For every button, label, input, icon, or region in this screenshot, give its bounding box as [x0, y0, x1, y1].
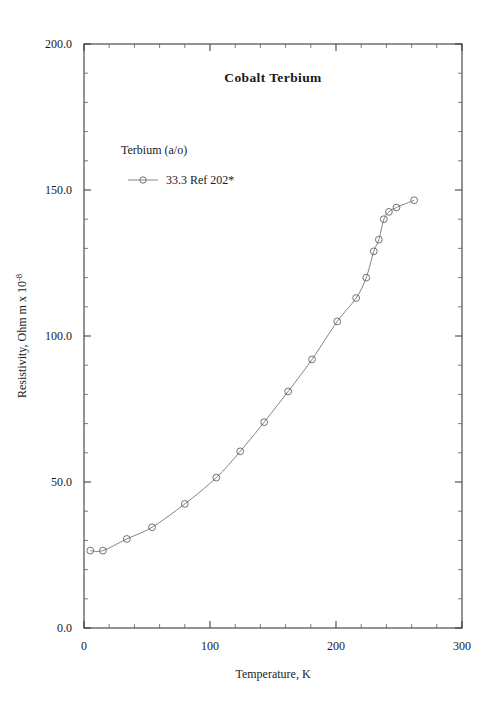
x-axis-tick-labels: 0100200300 [81, 639, 471, 653]
x-tick-label: 200 [327, 639, 345, 653]
x-tick-label: 300 [453, 639, 471, 653]
y-tick-label: 0.0 [57, 621, 72, 635]
x-tick-label: 0 [81, 639, 87, 653]
plot-frame [84, 44, 462, 628]
y-axis-label-main: Resistivity, Ohm m x 10 [15, 281, 29, 398]
x-axis-label: Temperature, K [235, 667, 310, 681]
series-line [90, 200, 414, 551]
y-axis-label: Resistivity, Ohm m x 10-8 [14, 274, 29, 398]
legend-entry[interactable]: 33.3 Ref 202* [128, 173, 234, 187]
y-axis-label-exponent: -8 [14, 274, 24, 281]
legend-entry-label: 33.3 Ref 202* [166, 173, 234, 187]
chart-figure: 0100200300 0.050.0100.0150.0200.0 Cobalt… [0, 0, 483, 704]
x-tick-label: 100 [201, 639, 219, 653]
legend: Terbium (a/o) 33.3 Ref 202* [121, 143, 234, 187]
axis-ticks [84, 44, 462, 628]
y-tick-label: 200.0 [45, 37, 72, 51]
resistivity-vs-temperature-chart: 0100200300 0.050.0100.0150.0200.0 Cobalt… [0, 0, 483, 704]
data-series-group [87, 197, 418, 554]
y-tick-label: 150.0 [45, 183, 72, 197]
axes-frame [84, 44, 462, 628]
y-axis-tick-labels: 0.050.0100.0150.0200.0 [45, 37, 72, 635]
y-tick-label: 100.0 [45, 329, 72, 343]
chart-title: Cobalt Terbium [224, 70, 322, 85]
y-tick-label: 50.0 [51, 475, 72, 489]
legend-title: Terbium (a/o) [121, 143, 187, 157]
